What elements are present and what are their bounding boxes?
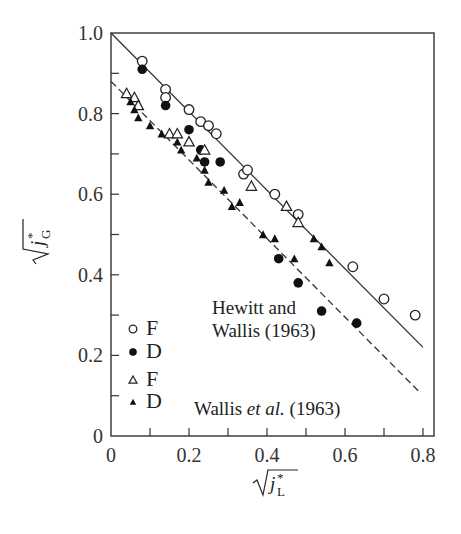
y-axis-label-sub: G bbox=[38, 230, 53, 239]
filled-triangle-marker bbox=[271, 234, 279, 242]
open-circle-marker bbox=[410, 310, 420, 320]
filled-triangle-marker bbox=[130, 399, 136, 405]
x-tick-label: 0.8 bbox=[411, 444, 436, 466]
filled-triangle-marker bbox=[158, 130, 166, 138]
filled-circle-marker bbox=[274, 254, 284, 264]
x-axis-label: j bbox=[267, 473, 275, 494]
y-tick-label: 1.0 bbox=[78, 22, 103, 44]
filled-circle-marker bbox=[215, 157, 225, 167]
annotation-hewitt-line1: Hewitt and bbox=[212, 297, 296, 318]
x-axis-label-sub: L bbox=[277, 484, 285, 499]
filled-triangle-marker bbox=[290, 255, 298, 263]
open-circle-marker bbox=[379, 294, 389, 304]
open-circle-marker bbox=[204, 121, 214, 131]
y-axis-label-star: * bbox=[24, 233, 39, 240]
plot-frame bbox=[111, 33, 434, 436]
filled-triangle-marker bbox=[177, 146, 185, 154]
legend-label: F bbox=[146, 315, 158, 340]
y-tick-label: 0.6 bbox=[78, 183, 103, 205]
filled-triangle-marker bbox=[236, 198, 244, 206]
legend-label: D bbox=[146, 338, 162, 363]
annotation-wallis: Wallis et al. (1963) bbox=[194, 398, 340, 420]
annotation-hewitt-line2: Wallis (1963) bbox=[212, 320, 315, 342]
filled-circle-marker bbox=[161, 101, 171, 111]
filled-triangle-marker bbox=[228, 202, 236, 210]
filled-circle-marker bbox=[129, 348, 137, 356]
x-tick-label: 0.2 bbox=[177, 444, 202, 466]
open-circle-marker bbox=[348, 262, 358, 272]
x-tick-label: 0.6 bbox=[333, 444, 358, 466]
open-triangle-marker bbox=[246, 181, 256, 190]
x-tick-label: 0 bbox=[106, 444, 116, 466]
annotations: Hewitt andWallis (1963)Wallis et al. (19… bbox=[194, 297, 340, 420]
data-points bbox=[121, 56, 420, 328]
filled-triangle-marker bbox=[134, 113, 142, 121]
series-filled-triangle bbox=[126, 97, 333, 266]
filled-triangle-marker bbox=[173, 138, 181, 146]
series-filled-circle bbox=[137, 64, 361, 327]
filled-circle-marker bbox=[352, 318, 362, 328]
open-circle-marker bbox=[270, 189, 280, 199]
open-triangle-marker bbox=[172, 129, 182, 138]
legend: FDFD bbox=[129, 315, 162, 413]
filled-triangle-marker bbox=[200, 166, 208, 174]
filled-triangle-marker bbox=[220, 186, 228, 194]
y-tick-label: 0.8 bbox=[78, 103, 103, 125]
y-axis-label-group: j*G bbox=[23, 219, 53, 264]
y-axis-label: j bbox=[27, 241, 48, 249]
filled-circle-marker bbox=[184, 125, 194, 135]
filled-triangle-marker bbox=[204, 178, 212, 186]
plot-axes bbox=[111, 33, 434, 436]
x-label-sqrt-icon bbox=[253, 470, 298, 495]
filled-triangle-marker bbox=[317, 242, 325, 250]
open-circle-marker bbox=[184, 105, 194, 115]
y-tick-label: 0 bbox=[93, 425, 103, 447]
y-tick-label: 0.2 bbox=[78, 344, 103, 366]
open-circle-marker bbox=[212, 129, 222, 139]
filled-triangle-marker bbox=[325, 259, 333, 267]
y-tick-label: 0.4 bbox=[78, 264, 103, 286]
series-open-circle bbox=[137, 56, 420, 319]
open-triangle-marker bbox=[129, 376, 137, 383]
open-circle-marker bbox=[243, 165, 253, 175]
filled-triangle-marker bbox=[310, 234, 318, 242]
open-triangle-marker bbox=[184, 137, 194, 146]
legend-label: D bbox=[146, 388, 162, 413]
x-axis-label-star: * bbox=[277, 470, 284, 485]
filled-circle-marker bbox=[317, 306, 327, 316]
filled-triangle-marker bbox=[193, 154, 201, 162]
filled-circle-marker bbox=[200, 157, 210, 167]
series-open-triangle bbox=[121, 88, 303, 226]
filled-circle-marker bbox=[137, 64, 147, 74]
filled-circle-marker bbox=[293, 278, 303, 288]
x-tick-label: 0.4 bbox=[255, 444, 280, 466]
chart: 00.20.40.60.81.000.20.40.60.8 Hewitt and… bbox=[0, 0, 461, 534]
open-circle-marker bbox=[129, 325, 137, 333]
